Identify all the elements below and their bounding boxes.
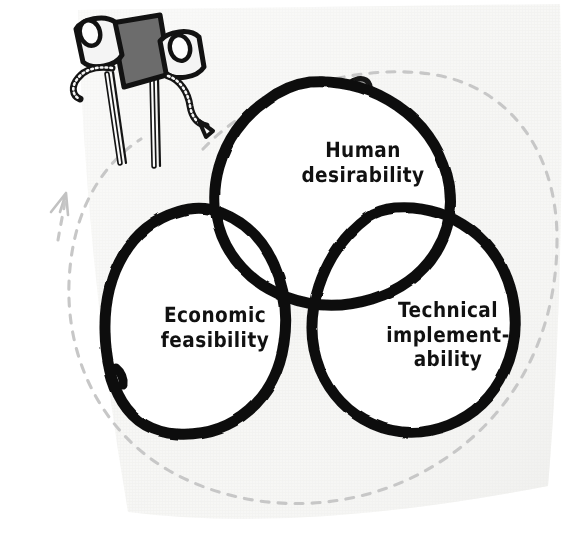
binoculars-icon xyxy=(73,15,213,166)
illustration-canvas: Human desirability Economic feasibility … xyxy=(0,0,583,543)
binoculars-left-barrel xyxy=(76,18,122,67)
binoculars-right-barrel xyxy=(160,32,204,78)
venn-circle-fills xyxy=(105,82,515,434)
